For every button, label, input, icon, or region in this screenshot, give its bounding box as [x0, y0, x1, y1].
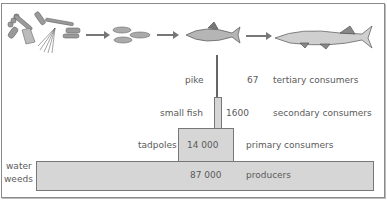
- pike-icon: [275, 26, 372, 49]
- value-small-fish: 1600: [226, 108, 249, 119]
- value-pike: 67: [247, 75, 258, 86]
- plankton-icon: [7, 11, 80, 53]
- value-tadpoles: 14 000: [187, 140, 219, 151]
- pike-bar: [216, 55, 218, 97]
- organism-label-water: water: [6, 161, 32, 172]
- organism-label-pike: pike: [185, 75, 204, 86]
- trophic-label-producers: producers: [246, 170, 291, 181]
- arrow-2-icon: [157, 34, 173, 36]
- trophic-label-primary: primary consumers: [246, 140, 333, 151]
- value-producers: 87 000: [190, 170, 222, 181]
- organism-label-tadpoles: tadpoles: [138, 140, 177, 151]
- trophic-label-secondary: secondary consumers: [273, 108, 372, 119]
- small-fish-icon: [186, 22, 240, 43]
- trophic-label-tertiary: tertiary consumers: [273, 75, 358, 86]
- small-fish-bar: [214, 97, 222, 129]
- organism-label-small-fish: small fish: [160, 108, 203, 119]
- organism-label-weeds: weeds: [4, 174, 33, 185]
- tadpoles-icon: [113, 27, 150, 43]
- arrow-3-icon: [246, 35, 266, 37]
- arrow-1-icon: [86, 34, 104, 36]
- food-chain-illustration: [0, 0, 387, 60]
